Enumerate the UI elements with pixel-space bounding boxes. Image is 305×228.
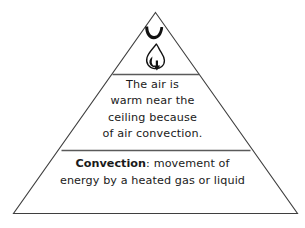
- definition-term: Convection: [75, 157, 146, 170]
- bottom-tier-line-1: Convection: movement of: [0, 156, 305, 173]
- bottom-tier-line-2: energy by a heated gas or liquid: [0, 173, 305, 190]
- middle-tier-line-3: ceiling because: [0, 110, 305, 126]
- flame-icon: [139, 24, 173, 72]
- bottom-tier-text: Convection: movement of energy by a heat…: [0, 156, 305, 189]
- flame-body-outline: [147, 44, 165, 69]
- middle-tier-line-4: of air convection.: [0, 126, 305, 142]
- middle-tier-line-1: The air is: [0, 77, 305, 93]
- middle-tier-line-2: warm near the: [0, 93, 305, 109]
- definition-line-1-rest: movement of: [150, 157, 230, 170]
- middle-tier-text: The air is warm near the ceiling because…: [0, 77, 305, 143]
- flame-inner-curl: [149, 57, 155, 68]
- flame-arc-shape: [145, 26, 163, 39]
- convection-pyramid-diagram: The air is warm near the ceiling because…: [0, 0, 305, 228]
